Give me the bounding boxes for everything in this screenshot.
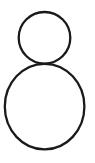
drawing-canvas bbox=[0, 0, 95, 163]
stacked-circles-figure bbox=[0, 0, 95, 163]
canvas-background bbox=[0, 0, 95, 163]
